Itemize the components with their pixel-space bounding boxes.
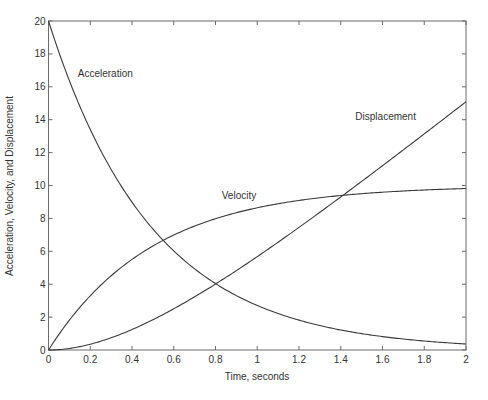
x-tick-label: 0.4 bbox=[125, 354, 139, 365]
y-axis-title: Acceleration, Velocity, and Displacement bbox=[4, 96, 15, 276]
y-tick-label: 4 bbox=[40, 279, 46, 290]
y-tick-label: 16 bbox=[34, 81, 46, 92]
x-tick-label: 0.6 bbox=[167, 354, 181, 365]
y-tick-label: 6 bbox=[40, 246, 46, 257]
y-tick-label: 8 bbox=[40, 213, 46, 224]
annotation-velocity: Velocity bbox=[222, 190, 256, 201]
y-tick-label: 18 bbox=[34, 48, 46, 59]
y-tick-label: 10 bbox=[34, 180, 46, 191]
y-tick-label: 14 bbox=[34, 114, 46, 125]
x-tick-label: 0.2 bbox=[83, 354, 97, 365]
curve-displacement bbox=[49, 102, 467, 350]
curve-velocity bbox=[49, 189, 467, 350]
x-tick-label: 1.8 bbox=[417, 354, 431, 365]
x-tick-label: 1.2 bbox=[292, 354, 306, 365]
x-tick-label: 2 bbox=[463, 354, 469, 365]
x-tick-label: 1 bbox=[254, 354, 260, 365]
x-tick-label: 0 bbox=[46, 354, 52, 365]
x-tick-label: 1.4 bbox=[334, 354, 348, 365]
y-tick-label: 0 bbox=[40, 345, 46, 356]
y-tick-label: 20 bbox=[34, 16, 46, 27]
chart: 00.20.40.60.811.21.41.61.82 024681012141… bbox=[0, 0, 488, 400]
x-tick-labels: 00.20.40.60.811.21.41.61.82 bbox=[46, 354, 470, 365]
x-tick-label: 1.6 bbox=[376, 354, 390, 365]
annotation-displacement: Displacement bbox=[355, 111, 416, 122]
y-tick-label: 2 bbox=[40, 312, 46, 323]
y-tick-labels: 02468101214161820 bbox=[34, 16, 46, 356]
curve-annotations: AccelerationVelocityDisplacement bbox=[78, 68, 416, 201]
annotation-acceleration: Acceleration bbox=[78, 68, 133, 79]
x-axis-title: Time, seconds bbox=[225, 371, 290, 382]
y-tick-label: 12 bbox=[34, 147, 46, 158]
x-tick-label: 0.8 bbox=[209, 354, 223, 365]
